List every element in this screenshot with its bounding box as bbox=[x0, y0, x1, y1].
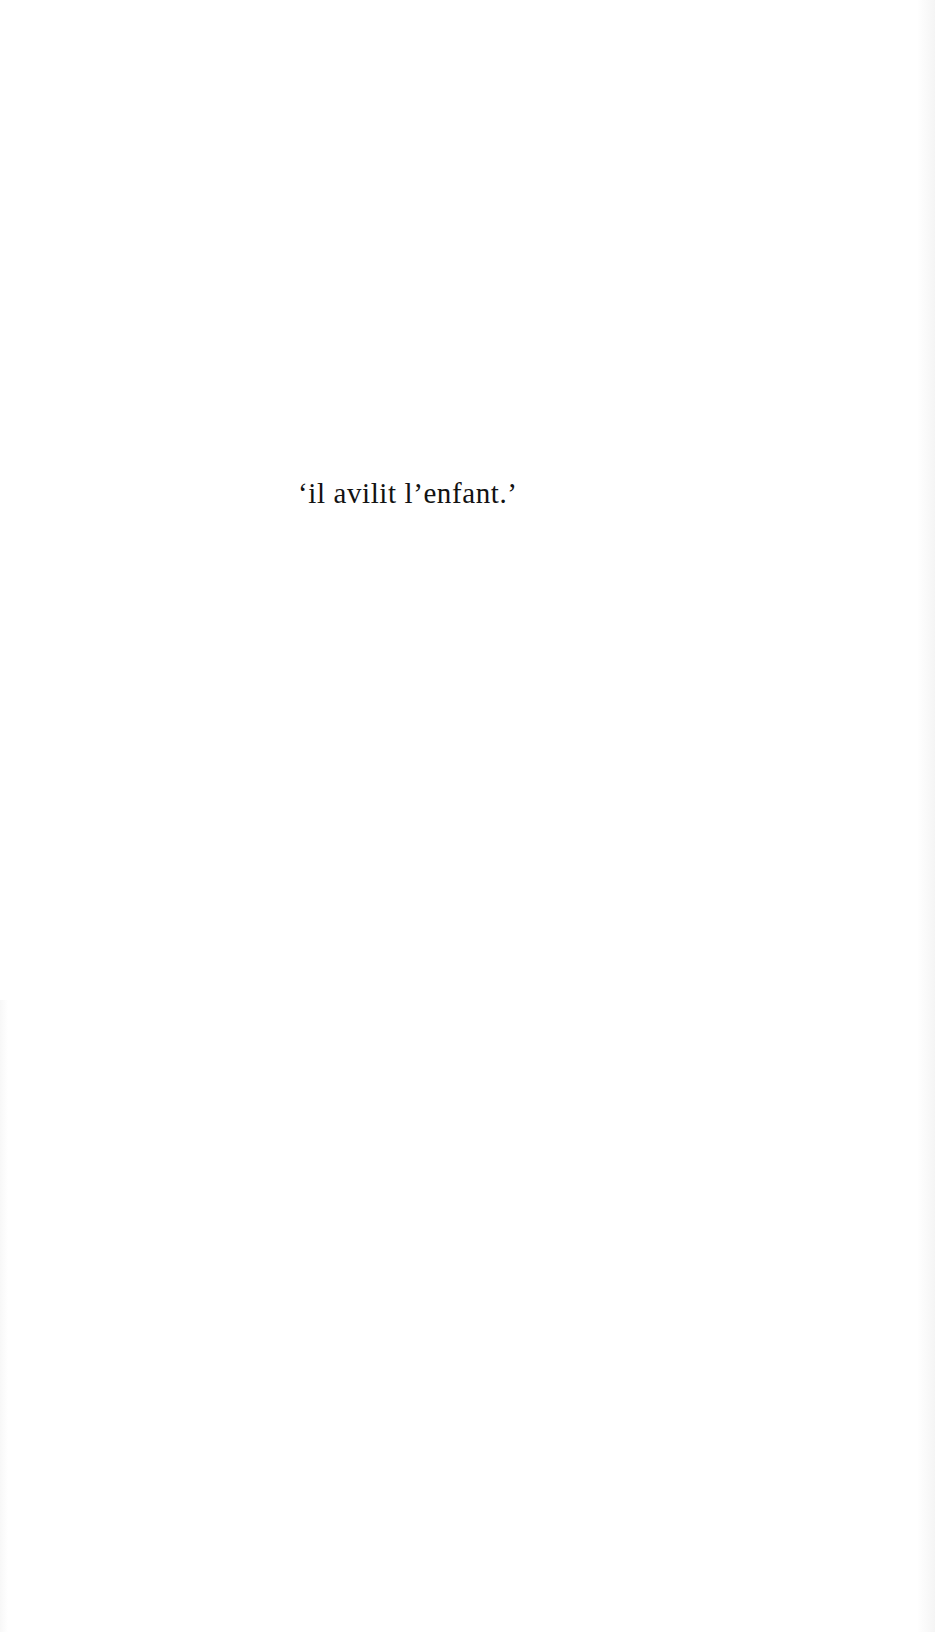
page-left-edge-shadow bbox=[0, 1000, 8, 1632]
document-page: ‘il avilit l’enfant.’ bbox=[0, 0, 935, 1632]
page-right-edge-shadow bbox=[917, 0, 935, 1632]
epigraph-quote: ‘il avilit l’enfant.’ bbox=[298, 475, 518, 511]
